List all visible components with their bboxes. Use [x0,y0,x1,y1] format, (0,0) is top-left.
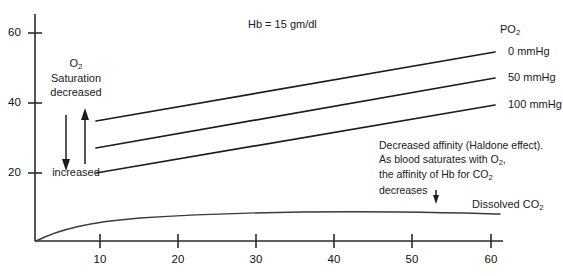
saturation-annotation-label: Saturation [34,72,118,85]
legend-entry-50mmhg: 50 mmHg [508,71,556,84]
x-tick-label-20: 20 [164,253,192,266]
x-tick-label-50: 50 [398,253,426,266]
chart-figure: 60 40 20 10 20 30 40 50 60 Hb = 15 gm/dl… [0,0,563,276]
haldane-line3-subscript: 2 [489,173,493,182]
haldane-annotation-line1: Decreased affinity (Haldone effect). [379,138,543,152]
saturation-o2-subscript: 2 [78,62,82,71]
haldane-line2-tail: , [503,153,506,165]
haldane-line3-text: the affinity of Hb for CO [379,168,489,180]
dissolved-co2-text: Dissolved CO [472,198,539,210]
legend-group-title-text: PO [500,23,516,35]
legend-group-title-subscript: 2 [516,28,520,37]
series-line-0mmhg [96,52,495,121]
y-tick-label-40: 40 [8,96,21,109]
x-tick-label-10: 10 [86,253,114,266]
haldane-line2-text: As blood saturates with O [379,153,499,165]
x-tick-label-60: 60 [477,253,505,266]
legend-group-title: PO2 [500,23,520,39]
haldane-annotation-line4: decreases [379,183,427,197]
saturation-annotation-decreased: decreased [34,86,118,99]
legend-entry-100mmhg: 100 mmHg [508,98,562,111]
saturation-annotation-o2: O2 [40,57,112,73]
dissolved-co2-subscript: 2 [539,203,543,212]
series-curve-dissolved-co2 [36,212,500,241]
saturation-annotation-increased: increased [34,166,118,179]
x-tick-label-30: 30 [242,253,270,266]
y-tick-label-20: 20 [8,166,21,179]
saturation-up-arrow-head [81,108,89,120]
legend-entry-0mmhg: 0 mmHg [508,45,550,58]
y-tick-label-60: 60 [8,26,21,39]
legend-entry-dissolved-co2: Dissolved CO2 [472,198,544,214]
decreases-down-arrow-head [433,195,439,204]
x-tick-label-40: 40 [320,253,348,266]
saturation-o2-text: O [70,57,79,69]
chart-title: Hb = 15 gm/dl [248,18,317,31]
